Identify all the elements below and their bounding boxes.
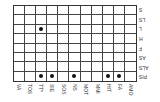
matrix-cell bbox=[92, 62, 103, 71]
matrix-cell bbox=[36, 15, 47, 24]
matrix-cell bbox=[14, 62, 25, 71]
matrix-cell bbox=[14, 6, 25, 15]
matrix-cell bbox=[14, 72, 25, 81]
matrix-cell bbox=[92, 44, 103, 53]
matrix-cell bbox=[25, 53, 36, 62]
matrix-cell bbox=[114, 62, 125, 71]
matrix-cell bbox=[58, 15, 69, 24]
matrix-cell bbox=[81, 6, 92, 15]
matrix-cell bbox=[25, 62, 36, 71]
matrix-cell bbox=[14, 15, 25, 24]
matrix-cell bbox=[114, 72, 125, 81]
matrix-cell bbox=[114, 15, 125, 24]
column-label: SOS bbox=[61, 84, 67, 100]
matrix-cell bbox=[103, 62, 114, 71]
matrix-cell bbox=[25, 15, 36, 24]
matrix-grid bbox=[13, 5, 137, 82]
matrix-cell bbox=[114, 34, 125, 43]
matrix-cell bbox=[47, 25, 58, 34]
dot-marker-icon bbox=[117, 74, 121, 78]
dot-marker-icon bbox=[72, 74, 76, 78]
column-label: FA bbox=[117, 84, 123, 100]
matrix-cell bbox=[125, 53, 136, 62]
matrix-cell bbox=[103, 25, 114, 34]
matrix-cell bbox=[47, 15, 58, 24]
matrix-cell bbox=[69, 34, 80, 43]
matrix-cell bbox=[103, 53, 114, 62]
matrix-cell bbox=[47, 44, 58, 53]
dot-marker-icon bbox=[50, 74, 54, 78]
row-label: L bbox=[139, 24, 159, 34]
column-label: NS bbox=[72, 84, 78, 100]
matrix-cell bbox=[114, 44, 125, 53]
column-label: HIT bbox=[106, 84, 112, 100]
matrix-cell bbox=[81, 44, 92, 53]
matrix-cell bbox=[125, 6, 136, 15]
matrix-cell bbox=[14, 53, 25, 62]
matrix-cell bbox=[47, 72, 58, 81]
matrix-cell bbox=[47, 62, 58, 71]
matrix-cell bbox=[47, 6, 58, 15]
column-label: VA bbox=[16, 84, 22, 100]
row-label: F bbox=[139, 44, 159, 54]
dot-marker-icon bbox=[106, 74, 110, 78]
matrix-cell bbox=[14, 44, 25, 53]
matrix-cell bbox=[14, 34, 25, 43]
matrix-cell bbox=[81, 15, 92, 24]
matrix-cell bbox=[103, 34, 114, 43]
matrix-cell bbox=[69, 72, 80, 81]
row-label: PIS bbox=[139, 72, 159, 82]
matrix-cell bbox=[81, 62, 92, 71]
matrix-cell bbox=[114, 25, 125, 34]
matrix-cell bbox=[36, 53, 47, 62]
matrix-cell bbox=[58, 44, 69, 53]
matrix-cell bbox=[69, 6, 80, 15]
row-label: S bbox=[139, 5, 159, 15]
matrix-cell bbox=[69, 53, 80, 62]
matrix-cell bbox=[92, 53, 103, 62]
matrix-cell bbox=[36, 6, 47, 15]
matrix-cell bbox=[36, 72, 47, 81]
matrix-cell bbox=[69, 15, 80, 24]
matrix-cell bbox=[103, 44, 114, 53]
column-label: MOT bbox=[83, 84, 89, 100]
matrix-cell bbox=[36, 34, 47, 43]
matrix-cell bbox=[58, 25, 69, 34]
matrix-cell bbox=[14, 25, 25, 34]
matrix-cell bbox=[36, 25, 47, 34]
matrix-cell bbox=[69, 62, 80, 71]
matrix-cell bbox=[58, 34, 69, 43]
dot-marker-icon bbox=[39, 74, 43, 78]
column-label: MMI bbox=[95, 84, 101, 100]
column-label: SIE bbox=[49, 84, 55, 100]
matrix-cell bbox=[125, 34, 136, 43]
matrix-cell bbox=[81, 53, 92, 62]
column-label: TOS bbox=[27, 84, 33, 100]
matrix-cell bbox=[47, 34, 58, 43]
row-label: LS bbox=[139, 15, 159, 25]
matrix-cell bbox=[92, 25, 103, 34]
matrix-cell bbox=[114, 53, 125, 62]
matrix-cell bbox=[114, 6, 125, 15]
column-labels: VATOSTT*SIESOSNSMOTMMIHITFAAMO bbox=[13, 84, 137, 100]
matrix-cell bbox=[58, 72, 69, 81]
matrix-cell bbox=[103, 6, 114, 15]
matrix-cell bbox=[25, 44, 36, 53]
matrix-cell bbox=[81, 25, 92, 34]
matrix-cell bbox=[125, 62, 136, 71]
matrix-cell bbox=[125, 15, 136, 24]
column-label: TT* bbox=[38, 84, 44, 100]
matrix-cell bbox=[103, 15, 114, 24]
matrix-cell bbox=[125, 72, 136, 81]
matrix-cell bbox=[92, 34, 103, 43]
matrix-cell bbox=[58, 62, 69, 71]
matrix-cell bbox=[103, 72, 114, 81]
matrix-cell bbox=[81, 72, 92, 81]
matrix-cell bbox=[69, 44, 80, 53]
matrix-cell bbox=[36, 44, 47, 53]
column-label: AMO bbox=[128, 84, 134, 100]
matrix-cell bbox=[25, 72, 36, 81]
row-label: AS bbox=[139, 53, 159, 63]
matrix-cell bbox=[92, 15, 103, 24]
matrix-cell bbox=[25, 34, 36, 43]
